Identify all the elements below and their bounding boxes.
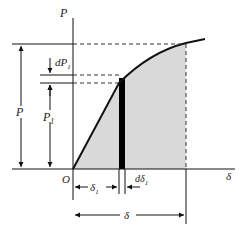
label-d-delta1: dδ1 [135, 173, 148, 187]
label-y-axis-P: P [59, 6, 68, 20]
load-displacement-diagram: P P P1 dP1 O δ1 dδ1 δ δ [0, 0, 243, 239]
label-delta-total: δ [124, 209, 130, 221]
shaded-area [73, 43, 186, 169]
strip-d-delta1 [119, 78, 125, 169]
label-dP1: dP1 [55, 56, 71, 71]
label-origin-O: O [62, 173, 70, 185]
label-P1: P1 [42, 110, 54, 126]
label-P: P [15, 105, 24, 119]
label-x-axis-delta: δ [226, 170, 232, 182]
label-delta1: δ1 [90, 181, 99, 196]
